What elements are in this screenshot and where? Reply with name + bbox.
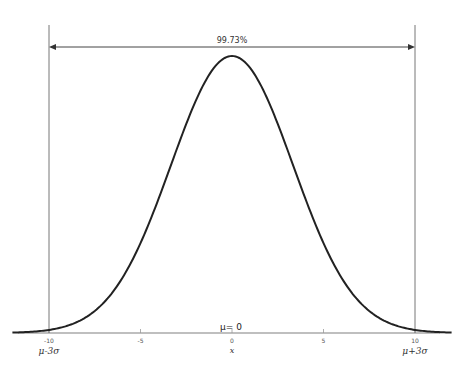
chart: -10-50510 99.73% μ= 0 μ-3σ μ+3σ x [0,0,462,374]
arrow-right-icon [408,44,415,50]
x-tick-label: 0 [230,337,234,344]
mean-label: μ= 0 [220,322,242,332]
x-tick-label: 10 [411,337,419,344]
arrow-left-icon [49,44,56,50]
x-axis-label: x [230,346,235,355]
x-tick-label: -5 [138,337,144,344]
x-tick-label: 5 [322,337,326,344]
x-tick-label: -10 [44,337,54,344]
lower-bound-label: μ-3σ [39,346,61,356]
span-label: 99.73% [217,36,248,45]
normal-curve [12,56,451,333]
upper-bound-label: μ+3σ [402,346,428,356]
span-arrow: 99.73% [49,36,415,50]
